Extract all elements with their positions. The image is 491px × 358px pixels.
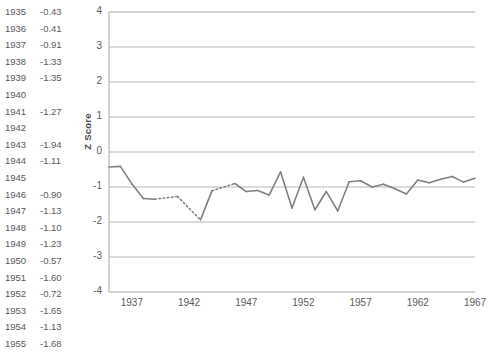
series-segment [235,184,246,192]
cell-year: 1936 [5,21,39,38]
series-segment-interpolated [155,196,178,199]
series-segment [464,178,475,182]
series-segment [452,177,463,183]
series-segment [338,182,349,211]
cell-year: 1941 [5,104,39,121]
series-segment [349,181,360,182]
series-segment [395,189,406,194]
cell-year: 1946 [5,187,39,204]
cell-year: 1938 [5,54,39,71]
series-segment [246,191,257,192]
cell-year: 1952 [5,286,39,303]
series-segment [201,191,212,220]
cell-year: 1953 [5,303,39,320]
series-segment [120,166,131,184]
series-segment [384,184,395,189]
cell-year: 1942 [5,120,39,137]
series-segment [429,179,440,183]
series-segment [361,181,372,187]
cell-year: 1935 [5,4,39,21]
gridlines [109,47,475,257]
cell-year: 1944 [5,153,39,170]
series-segment [315,192,326,210]
cell-year: 1947 [5,203,39,220]
plot-area [74,0,479,300]
series-segment [143,199,154,200]
cell-year: 1937 [5,37,39,54]
cell-year: 1940 [5,87,39,104]
cell-year: 1951 [5,270,39,287]
cell-year: 1948 [5,220,39,237]
cell-year: 1950 [5,253,39,270]
cell-year: 1949 [5,236,39,253]
series-segment [326,192,337,211]
series-segment [292,177,303,208]
cell-year: 1955 [5,336,39,353]
cell-year: 1939 [5,70,39,87]
series-line-zscore [109,166,475,220]
series-segment [441,177,452,180]
series-segment [132,184,143,199]
series-segment [418,180,429,183]
cell-year: 1954 [5,319,39,336]
table-row: 1955-1.68 [0,336,86,353]
series-segment [258,191,269,196]
cell-value: -1.68 [40,336,80,353]
series-segment [281,172,292,208]
line-chart: Z Score 43210-1-2-3-4 193719421947195219… [74,0,479,330]
cell-year: 1943 [5,137,39,154]
cell-year: 1945 [5,170,39,187]
series-segment-interpolated [178,196,201,219]
series-segment [303,177,314,210]
series-segment [109,166,120,167]
series-segment [269,172,280,195]
